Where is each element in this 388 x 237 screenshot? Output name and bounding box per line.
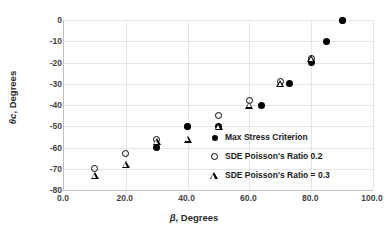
y-axis-tick-label: -10 bbox=[22, 37, 62, 46]
data-point bbox=[122, 150, 129, 157]
y-axis-tick-label: -20 bbox=[22, 59, 62, 68]
legend-item-label: SDE Poisson's Ratio = 0.3 bbox=[225, 171, 330, 180]
y-axis-title-rest: , Degrees bbox=[7, 71, 18, 114]
data-point bbox=[245, 102, 253, 109]
gridline-horizontal bbox=[64, 105, 373, 106]
data-point bbox=[184, 123, 191, 130]
data-point bbox=[339, 17, 346, 24]
y-axis-tick-label: -40 bbox=[22, 101, 62, 110]
y-axis-tick-label: -70 bbox=[22, 165, 62, 174]
legend-item-label: Max Stress Criterion bbox=[225, 133, 308, 142]
x-axis-tick-label: 60.0 bbox=[226, 194, 270, 203]
x-axis-tick-label: 100.0 bbox=[350, 194, 388, 203]
data-point bbox=[122, 161, 130, 168]
data-point bbox=[276, 80, 284, 87]
filled-circle-icon bbox=[210, 133, 221, 142]
data-point bbox=[307, 55, 315, 62]
x-axis-title: β, Degrees bbox=[0, 212, 388, 223]
data-point bbox=[286, 80, 293, 87]
gridline-horizontal bbox=[64, 20, 373, 21]
y-axis-tick-label: -30 bbox=[22, 80, 62, 89]
legend-item-label: SDE Poisson's Ratio 0.2 bbox=[225, 152, 322, 161]
legend: Max Stress CriterionSDE Poisson's Ratio … bbox=[210, 128, 370, 185]
gridline-vertical bbox=[188, 20, 189, 190]
legend-item: SDE Poisson's Ratio = 0.3 bbox=[210, 166, 370, 185]
x-axis-tick-label: 20.0 bbox=[103, 194, 147, 203]
gridline-horizontal bbox=[64, 84, 373, 85]
data-point bbox=[153, 144, 160, 151]
data-point bbox=[258, 102, 265, 109]
open-triangle-icon bbox=[210, 171, 221, 180]
y-axis-tick-label: -60 bbox=[22, 144, 62, 153]
x-axis-tick-label: 40.0 bbox=[165, 194, 209, 203]
data-point bbox=[153, 138, 161, 145]
gridline-horizontal bbox=[64, 63, 373, 64]
y-axis-title: θc, Degrees bbox=[7, 38, 18, 158]
legend-item: SDE Poisson's Ratio 0.2 bbox=[210, 147, 370, 166]
legend-item: Max Stress Criterion bbox=[210, 128, 370, 147]
data-point bbox=[184, 136, 192, 143]
y-axis-subscript: c bbox=[7, 114, 18, 119]
x-axis-title-rest: , Degrees bbox=[176, 212, 219, 223]
gridline-vertical bbox=[373, 20, 374, 190]
data-point bbox=[215, 112, 222, 119]
y-axis-tick-label: -50 bbox=[22, 122, 62, 131]
y-axis-tick-label: 0 bbox=[22, 16, 62, 25]
scatter-chart: θc, Degrees β, Degrees Max Stress Criter… bbox=[0, 0, 388, 237]
y-axis-symbol: θ bbox=[7, 119, 18, 124]
data-point bbox=[323, 38, 330, 45]
data-point bbox=[91, 172, 99, 179]
open-circle-icon bbox=[210, 152, 221, 161]
x-axis-tick-label: 80.0 bbox=[288, 194, 332, 203]
x-axis-tick-label: 0.0 bbox=[41, 194, 85, 203]
